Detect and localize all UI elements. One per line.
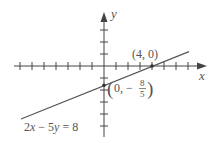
graph: y x (4, 0) ( 0, − 8 5 ) 2x − 5y = 8 [0,0,217,143]
svg-text:8: 8 [140,78,145,88]
point-label-0-neg-8-5: ( 0, − 8 5 ) [107,78,153,100]
svg-text:5: 5 [140,89,145,99]
equation-label: 2x − 5y = 8 [24,120,78,134]
point-4-0 [150,64,154,68]
svg-text:0, −: 0, − [114,81,133,95]
x-axis-label: x [198,68,205,83]
y-axis-label: y [109,6,117,21]
point-0-neg-8-5 [102,83,106,87]
svg-text:): ) [147,78,153,100]
y-axis-arrow-icon [101,12,108,22]
svg-text:(: ( [107,78,113,100]
point-label-4-0: (4, 0) [132,47,158,61]
